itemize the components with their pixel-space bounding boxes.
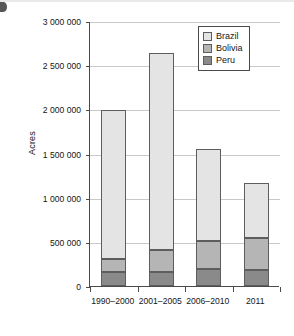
- legend-label-brazil: Brazil: [216, 31, 239, 41]
- bar-segment-brazil: [244, 183, 269, 239]
- legend-label-bolivia: Bolivia: [216, 43, 243, 53]
- legend-label-peru: Peru: [216, 55, 235, 65]
- scan-blob-artifact: [0, 2, 7, 12]
- legend-item-brazil: Brazil: [203, 30, 243, 42]
- x-axis-tick: [138, 287, 139, 292]
- y-axis-title: Acres: [27, 113, 37, 173]
- x-axis-tick-label: 2001–2005: [137, 296, 185, 306]
- y-axis-tick: [86, 66, 90, 67]
- y-axis-tick: [86, 110, 90, 111]
- bar-segment-brazil: [196, 149, 221, 241]
- bar-stack: [101, 21, 126, 286]
- y-axis-tick-label: 1 000 000: [0, 194, 81, 204]
- legend-item-bolivia: Bolivia: [203, 42, 243, 54]
- y-axis-tick-label: 3 000 000: [0, 17, 81, 27]
- bar-segment-peru: [244, 270, 269, 286]
- bar-stack: [149, 21, 174, 286]
- bar-segment-brazil: [149, 53, 174, 250]
- legend-swatch-brazil: [203, 32, 212, 41]
- x-axis-tick-label: 2011: [232, 296, 280, 306]
- plot-area: [89, 22, 279, 287]
- plot-inner: [90, 22, 279, 286]
- legend-swatch-bolivia: [203, 44, 212, 53]
- y-axis-tick-label: 0: [0, 282, 81, 292]
- legend-swatch-peru: [203, 56, 212, 65]
- x-axis-tick-label: 1990–2000: [89, 296, 137, 306]
- chart-legend: Brazil Bolivia Peru: [198, 26, 250, 71]
- bar-segment-bolivia: [244, 238, 269, 269]
- y-axis-tick-label: 2 000 000: [0, 105, 81, 115]
- y-axis-tick-label: 2 500 000: [0, 61, 81, 71]
- y-axis-tick: [86, 243, 90, 244]
- bar-segment-bolivia: [196, 241, 221, 269]
- x-axis-tick: [185, 287, 186, 292]
- y-axis-tick: [86, 155, 90, 156]
- x-axis-tick: [233, 287, 234, 292]
- y-axis-tick-label: 500 000: [0, 238, 81, 248]
- legend-item-peru: Peru: [203, 54, 243, 66]
- chart-figure: Acres 0500 0001 000 0001 500 0002 000 00…: [0, 0, 294, 336]
- x-axis-tick-label: 2006–2010: [184, 296, 232, 306]
- y-axis-tick-label: 1 500 000: [0, 150, 81, 160]
- bar-segment-bolivia: [149, 250, 174, 272]
- x-axis-tick: [90, 287, 91, 292]
- y-axis-tick: [86, 22, 90, 23]
- bar-segment-peru: [196, 269, 221, 286]
- bar-segment-peru: [149, 272, 174, 286]
- x-axis-tick: [280, 287, 281, 292]
- bar-segment-brazil: [101, 110, 126, 258]
- bar-segment-peru: [101, 272, 126, 286]
- scan-edge-artifact: [0, 0, 294, 2]
- y-axis-tick: [86, 199, 90, 200]
- bar-segment-bolivia: [101, 259, 126, 272]
